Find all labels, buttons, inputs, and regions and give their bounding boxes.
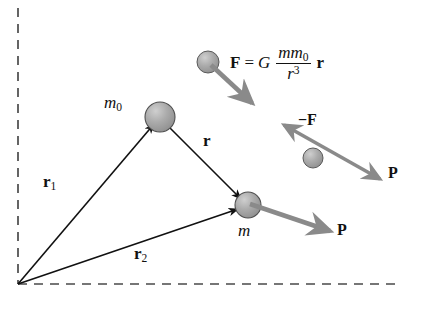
r1-symbol: r xyxy=(43,172,51,191)
diagram-canvas xyxy=(0,0,422,313)
reaction-momentum-axis xyxy=(284,125,380,179)
formula-trailing-vector-r: r xyxy=(317,53,325,73)
momentum-label-upper: P xyxy=(388,165,398,181)
r-symbol: r xyxy=(203,131,211,150)
mass-m-label: m xyxy=(238,222,250,239)
formula-fraction: mm0 r3 xyxy=(276,44,310,83)
position-vector-r2-label: r2 xyxy=(134,245,147,262)
position-vector-r2-line xyxy=(18,209,238,284)
mass-m0-subscript: 0 xyxy=(116,101,122,114)
formula-constant-G: G xyxy=(258,53,270,73)
r2-subscript: 2 xyxy=(142,252,148,265)
formula-num-m0: m xyxy=(291,43,303,62)
r1-subscript: 1 xyxy=(51,180,57,193)
formula-numerator: mm0 xyxy=(276,44,310,63)
r2-symbol: r xyxy=(134,244,142,263)
formula-denominator: r3 xyxy=(276,63,310,83)
mass-m-symbol: m xyxy=(238,221,250,240)
mass-m0-symbol: m xyxy=(104,93,116,112)
formula-den-exponent: 3 xyxy=(294,64,300,77)
momentum-vector-P-lower-arrow xyxy=(250,204,330,231)
formula-lhs: F xyxy=(230,53,240,73)
reaction-force-label: −F xyxy=(298,112,317,128)
formula-equals: = xyxy=(244,53,254,73)
separation-vector-r-label: r xyxy=(203,132,211,149)
formula-den-r: r xyxy=(287,64,294,83)
position-vector-r1-label: r1 xyxy=(43,173,56,190)
sphere-reaction-illustration xyxy=(303,148,323,168)
formula-num-m: m xyxy=(278,43,290,62)
gravitation-formula: F = G mm0 r3 r xyxy=(230,44,324,83)
mass-m0-label: m0 xyxy=(104,94,122,111)
formula-num-m0-subscript: 0 xyxy=(303,51,309,64)
momentum-label-lower: P xyxy=(337,222,347,238)
mass-m0-sphere xyxy=(145,102,175,132)
physics-diagram: m0 m r1 r2 r −F P P F = G mm0 r3 r xyxy=(0,0,422,313)
